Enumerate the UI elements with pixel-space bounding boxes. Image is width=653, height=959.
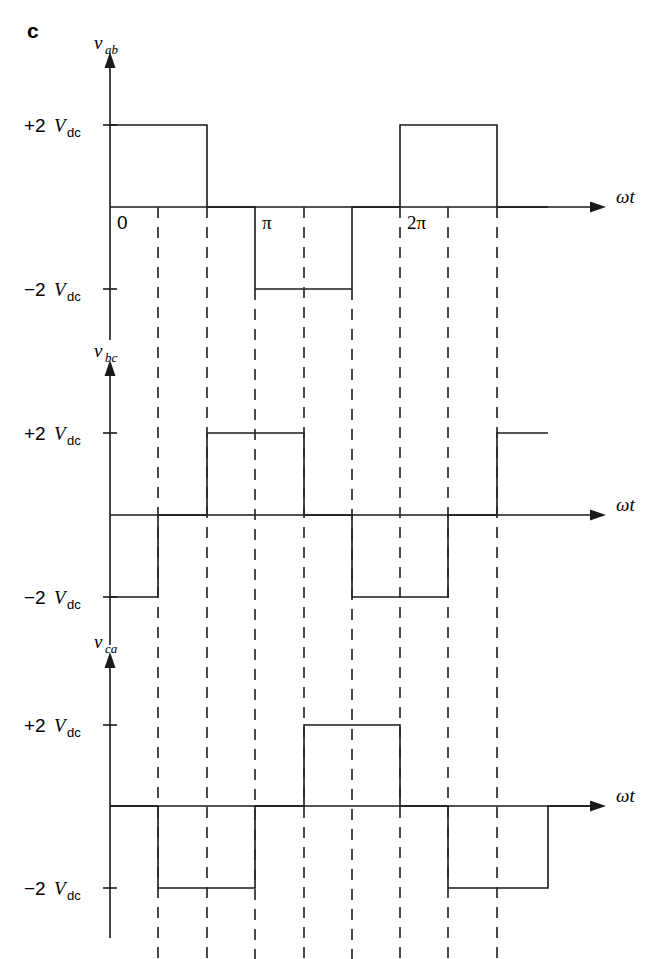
svg-text:−2: −2 bbox=[24, 878, 46, 899]
svg-text:V: V bbox=[54, 878, 68, 899]
svg-text:−2: −2 bbox=[24, 587, 46, 608]
y-tick-label-neg-v-ca: −2 V dc bbox=[24, 878, 81, 903]
signal-label-v-ca-main: v bbox=[94, 631, 103, 652]
x-axis-label-v-bc: ωt bbox=[616, 494, 635, 515]
x-axis-arrow-v-bc bbox=[590, 510, 606, 521]
svg-text:dc: dc bbox=[67, 725, 81, 740]
svg-text:V: V bbox=[54, 715, 68, 736]
grid-dashed-lines bbox=[158, 207, 497, 959]
svg-text:+2: +2 bbox=[24, 715, 46, 736]
svg-text:dc: dc bbox=[67, 125, 81, 140]
waveform-figure: c v ab ωt +2 V dc −2 V dc bbox=[0, 0, 653, 959]
svg-text:V: V bbox=[54, 587, 68, 608]
x-axis-label-v-ca: ωt bbox=[616, 785, 635, 806]
svg-text:V: V bbox=[54, 279, 68, 300]
svg-text:dc: dc bbox=[67, 597, 81, 612]
svg-text:dc: dc bbox=[67, 289, 81, 304]
signal-label-v-bc-main: v bbox=[94, 340, 103, 361]
signal-label-v-ab-sub: ab bbox=[105, 42, 119, 57]
plot-v-bc: v bc ωt +2 V dc −2 V dc bbox=[24, 340, 635, 645]
svg-text:dc: dc bbox=[67, 433, 81, 448]
y-tick-label-pos-v-ca: +2 V dc bbox=[24, 715, 81, 740]
svg-text:−2: −2 bbox=[24, 279, 46, 300]
plot-v-ab: v ab ωt +2 V dc −2 V dc bbox=[24, 32, 635, 340]
waveform-v-bc bbox=[110, 433, 548, 597]
x-tick-label-pi: π bbox=[262, 212, 272, 233]
y-tick-label-neg-v-ab: −2 V dc bbox=[24, 279, 81, 304]
plot-v-ca: v ca ωt +2 V dc −2 V dc bbox=[24, 631, 635, 938]
svg-text:V: V bbox=[54, 115, 68, 136]
panel-label-c: c bbox=[27, 19, 39, 42]
svg-text:+2: +2 bbox=[24, 423, 46, 444]
x-axis-label-v-ab: ωt bbox=[616, 186, 635, 207]
y-tick-label-pos-v-bc: +2 V dc bbox=[24, 423, 81, 448]
y-tick-label-pos-v-ab: +2 V dc bbox=[24, 115, 81, 140]
x-axis-arrow-v-ab bbox=[590, 202, 606, 213]
y-tick-label-neg-v-bc: −2 V dc bbox=[24, 587, 81, 612]
signal-label-v-ca-sub: ca bbox=[105, 641, 118, 656]
signal-label-v-bc-sub: bc bbox=[105, 350, 118, 365]
three-phase-line-voltage-chart: c v ab ωt +2 V dc −2 V dc bbox=[0, 0, 653, 959]
svg-text:V: V bbox=[54, 423, 68, 444]
svg-text:dc: dc bbox=[67, 888, 81, 903]
x-tick-label-0: 0 bbox=[117, 212, 128, 233]
x-tick-label-2pi: 2π bbox=[407, 212, 427, 233]
svg-text:+2: +2 bbox=[24, 115, 46, 136]
signal-label-v-ab-main: v bbox=[94, 32, 103, 53]
